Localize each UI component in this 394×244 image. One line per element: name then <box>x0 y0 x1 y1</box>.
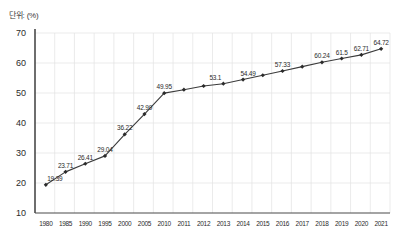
data-point-label: 29.04 <box>97 146 112 153</box>
data-point-marker <box>379 47 383 51</box>
data-point-marker <box>261 73 265 77</box>
data-point-markers <box>44 47 383 187</box>
plot-svg <box>0 0 394 244</box>
x-axis-tick-label: 2014 <box>236 220 249 227</box>
data-point-label: 60.24 <box>314 52 329 59</box>
x-axis-tick-label: 1985 <box>59 220 72 227</box>
x-axis-tick-label: 2020 <box>355 220 368 227</box>
x-axis-tick-label: 2013 <box>217 220 230 227</box>
data-point-label: 23.71 <box>58 162 73 169</box>
x-axis-tick-label: 2017 <box>296 220 309 227</box>
data-point-marker <box>182 88 186 92</box>
data-point-marker <box>241 77 245 81</box>
data-point-marker <box>300 65 304 69</box>
data-point-label: 19.39 <box>47 175 62 182</box>
data-point-label: 62.71 <box>354 45 369 52</box>
data-point-label: 54.49 <box>240 70 255 77</box>
data-point-label: 57.33 <box>275 61 290 68</box>
data-point-marker <box>202 84 206 88</box>
y-axis-tick-label: 60 <box>4 58 26 68</box>
y-axis-tick-label: 70 <box>4 28 26 38</box>
data-point-marker <box>280 69 284 73</box>
x-axis-tick-label: 1980 <box>39 220 52 227</box>
x-axis-tick-label: 1995 <box>98 220 111 227</box>
data-point-marker <box>359 53 363 57</box>
x-axis-tick-label: 2015 <box>256 220 269 227</box>
plot-area: 70605040302010 1980198519901995200020052… <box>0 0 394 244</box>
x-axis-tick-label: 2018 <box>315 220 328 227</box>
x-axis-tick-label: 2012 <box>197 220 210 227</box>
x-axis-tick-label: 2005 <box>138 220 151 227</box>
x-axis-tick-label: 2010 <box>158 220 171 227</box>
data-point-label: 26.41 <box>78 154 93 161</box>
data-point-marker <box>83 162 87 166</box>
x-axis-tick-label: 2019 <box>335 220 348 227</box>
y-axis-tick-label: 40 <box>4 118 26 128</box>
data-point-label: 42.99 <box>137 104 152 111</box>
data-point-label: 36.22 <box>117 124 132 131</box>
x-axis-tick-label: 2021 <box>374 220 387 227</box>
y-axis-tick-label: 30 <box>4 148 26 158</box>
line-chart: 단위: (%) 70605040302010 19801985199019952… <box>0 0 394 244</box>
y-axis-tick-label: 20 <box>4 178 26 188</box>
y-axis-tick-label: 50 <box>4 88 26 98</box>
data-point-label: 49.95 <box>157 83 172 90</box>
x-axis-tick-label: 1990 <box>79 220 92 227</box>
x-axis-tick-label: 2016 <box>276 220 289 227</box>
data-point-label: 64.72 <box>373 39 388 46</box>
data-point-label: 53.1 <box>209 74 221 81</box>
data-point-marker <box>320 60 324 64</box>
data-point-marker <box>340 56 344 60</box>
data-point-label: 61.5 <box>336 49 348 56</box>
data-point-marker <box>221 82 225 86</box>
x-axis-tick-label: 2011 <box>178 220 191 227</box>
x-axis-tick-label: 2000 <box>118 220 131 227</box>
y-axis-tick-label: 10 <box>4 208 26 218</box>
